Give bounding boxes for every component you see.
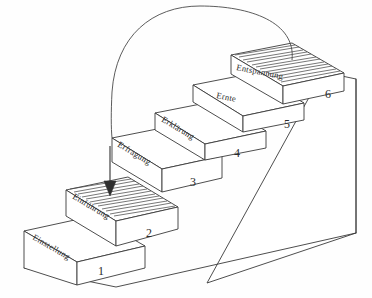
step-3-number: 3 — [190, 175, 196, 189]
staircase-drawing: Einstellung 1 Einführu — [0, 0, 372, 298]
staircase-diagram: Einstellung 1 Einführu — [0, 0, 372, 298]
step-5-number: 5 — [284, 117, 290, 131]
step-6-number: 6 — [325, 87, 331, 101]
step-4-number: 4 — [234, 146, 240, 160]
step-1-number: 1 — [98, 264, 104, 278]
step-2-number: 2 — [146, 226, 152, 240]
